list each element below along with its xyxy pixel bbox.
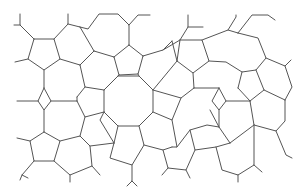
tiling-edge [216,125,254,175]
tiling-edge [172,120,177,147]
tiling-edge [190,130,230,150]
tiling-edge [210,110,219,127]
tiling-edge [163,15,188,50]
tiling-edge [144,145,172,150]
tiling-edge [129,45,143,56]
tiling-edge [238,72,242,88]
tiling-edge [68,24,80,27]
tiling-edge [162,168,168,175]
tiling-edge [285,66,292,100]
tiling-edge [100,112,114,143]
tiling-edge [80,65,104,90]
tiling-edge [77,101,104,117]
tiling-edge [153,61,177,90]
tiling-edge [77,87,85,97]
tiling-edge [30,132,60,161]
tiling-edge [172,41,177,61]
tiling-edge [153,88,194,98]
tiling-edge [256,70,285,100]
tiling-edge [250,100,285,131]
tiling-edge [143,41,172,56]
tiling-edge [28,39,60,70]
tiling-edge [54,14,68,39]
tiling-edge [153,98,181,120]
tiling-edge [127,165,132,186]
tiling-edge [254,165,262,172]
tiling-edges [14,14,292,186]
tiling-edge [114,126,118,143]
tiling-edge [80,51,94,65]
tiling-edge [110,126,144,165]
tiling-edge [60,59,80,65]
tiling-edge [80,27,94,51]
tiling-edge [38,88,51,110]
tiling-edge [104,76,153,126]
tiling-edge [238,88,250,101]
tiling-edge [212,88,226,110]
tiling-edge [80,117,85,136]
tiling-edge [202,30,238,40]
tiling-edge [228,15,236,30]
tiling-edge [250,90,264,101]
tiling-edge [209,33,266,72]
tiling-edge [92,166,100,175]
tiling-edge [94,51,114,57]
tiling-edge [186,170,190,178]
tiling-edge [90,143,114,146]
tiling-edge [266,58,291,66]
tiling-edge [129,15,150,25]
tiling-edge [230,125,254,143]
tiling-edge [132,181,137,186]
tiling-edge [114,45,129,57]
tiling-edge [17,138,30,141]
tiling-edge [177,125,230,147]
tiling-edge [114,56,143,75]
tiling-edge [193,73,194,88]
tiling-edge [20,14,34,39]
tiling-edge [163,150,195,170]
tiling-edge [177,40,209,73]
tiling-edge [15,59,28,62]
tiling-edge [22,175,28,178]
tiling-edge [276,131,292,158]
tiling-diagram [0,0,304,194]
tiling-edge [238,15,275,33]
